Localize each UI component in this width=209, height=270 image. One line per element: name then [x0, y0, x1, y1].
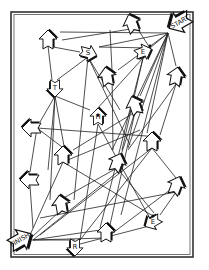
connection-line [80, 124, 98, 240]
connection-line [160, 84, 176, 135]
node-label: S [86, 49, 91, 57]
node-n_tl [39, 29, 59, 49]
connection-line [152, 148, 176, 178]
connection-line [57, 57, 88, 80]
connection-line [30, 186, 33, 228]
arrow-nodes: STARTSETHEFINISHR [5, 5, 196, 257]
arrow-icon [96, 66, 117, 88]
connection-line [168, 33, 176, 66]
connection-line [55, 96, 64, 146]
junction-dot [149, 45, 152, 48]
arrow-icon [166, 66, 187, 88]
node-label: T [52, 84, 58, 92]
node-label: E [151, 218, 155, 226]
connection-line [63, 162, 153, 216]
maze-diagram: STARTSETHEFINISHR [0, 0, 209, 270]
junction-dot [152, 215, 155, 218]
arrow-icon [50, 194, 71, 216]
connection-line [37, 128, 160, 137]
node-n_r2 [143, 131, 163, 151]
node-n_l1 [21, 117, 41, 137]
node-n_tc [120, 10, 145, 36]
node-n_mc [96, 64, 119, 87]
node-n_r3 [164, 172, 189, 198]
junction-dot [97, 114, 100, 117]
connection-line [60, 32, 168, 33]
connection-line [110, 30, 112, 70]
connection-line [74, 57, 88, 200]
connection-line [32, 210, 61, 237]
node-n_r1 [166, 64, 189, 87]
connection-line [48, 46, 52, 80]
node-label: R [73, 243, 78, 251]
node-n_l2 [19, 169, 39, 189]
node-t: T [45, 80, 63, 98]
node-e_bot: E [139, 210, 164, 234]
connection-line [62, 28, 137, 40]
node-s: S [78, 43, 100, 65]
connection-line [80, 225, 153, 244]
connection-line [99, 33, 168, 47]
node-n_ml [54, 145, 74, 165]
node-label: E [141, 48, 145, 56]
node-n_mr [123, 92, 148, 118]
node-n_c [105, 149, 130, 175]
connection-line [55, 96, 90, 110]
